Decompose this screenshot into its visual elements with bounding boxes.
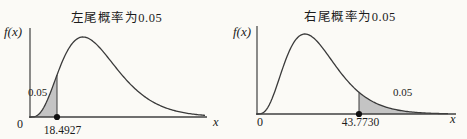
chart-title: 右尾概率为0.05 <box>233 6 467 25</box>
origin-label: 0 <box>17 117 23 132</box>
tail-probability-label: 0.05 <box>393 86 412 98</box>
critical-value-label: 18.4927 <box>30 124 95 136</box>
critical-value-label: 43.7730 <box>328 116 393 128</box>
origin-label: 0 <box>257 115 263 130</box>
chart-title: 左尾概率为0.05 <box>0 7 233 26</box>
x-axis-label: x <box>450 112 456 127</box>
x-axis-label: x <box>213 115 219 130</box>
distribution-tails-figure: 左尾概率为0.05 f(x) 0 x 0.05 18.4927 右尾概率为0.0… <box>0 0 467 139</box>
y-axis-label: f(x) <box>233 24 251 40</box>
density-curve <box>257 34 448 114</box>
tail-probability-label: 0.05 <box>28 86 47 98</box>
right-tail-chart-panel: 右尾概率为0.05 f(x) 0 x 0.05 43.7730 <box>233 0 467 139</box>
y-axis-label: f(x) <box>4 24 22 40</box>
left-tail-chart-panel: 左尾概率为0.05 f(x) 0 x 0.05 18.4927 <box>0 0 233 139</box>
critical-value-dot <box>54 114 60 120</box>
